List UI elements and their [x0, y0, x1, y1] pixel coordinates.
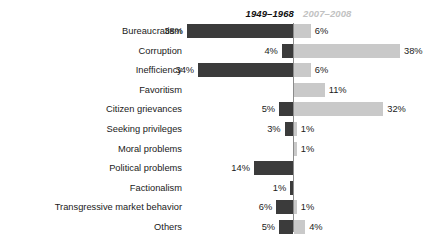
- chart-row: Corruption4%38%: [0, 43, 436, 63]
- value-label-right: 32%: [387, 104, 406, 115]
- bar-right: [294, 142, 297, 156]
- legend-label-period-2007-2008: 2007–2008: [303, 8, 351, 19]
- chart-row: Others5%4%: [0, 219, 436, 239]
- plot-area: Bureaucratism38%6%Corruption4%38%Ineffic…: [0, 23, 436, 239]
- value-label-left: 5%: [262, 222, 275, 233]
- bar-left: [254, 161, 293, 175]
- bar-right: [294, 200, 297, 214]
- value-label-right: 6%: [315, 26, 328, 37]
- chart-row: Political problems14%: [0, 160, 436, 180]
- chart-row: Inefficiency34%6%: [0, 62, 436, 82]
- category-label: Seeking privileges: [107, 124, 182, 135]
- chart-row: Factionalism1%: [0, 180, 436, 200]
- bar-right: [294, 24, 311, 38]
- category-label: Factionalism: [130, 183, 182, 194]
- value-label-right: 38%: [404, 46, 423, 57]
- value-label-left: 34%: [176, 65, 195, 76]
- legend-label-period-1949-1968: 1949–1968: [246, 8, 294, 19]
- value-label-right: 11%: [329, 85, 347, 96]
- bar-left: [282, 44, 293, 58]
- chart-row: Seeking privileges3%1%: [0, 121, 436, 141]
- value-label-right: 4%: [309, 222, 322, 233]
- bar-left: [198, 63, 293, 77]
- category-label: Favoritism: [139, 85, 182, 96]
- bar-right: [294, 83, 325, 97]
- bar-left: [279, 220, 293, 234]
- chart-row: Citizen grievances5%32%: [0, 101, 436, 121]
- value-label-right: 6%: [315, 65, 328, 76]
- bar-left: [276, 200, 293, 214]
- chart-row: Transgressive market behavior6%1%: [0, 199, 436, 219]
- value-label-left: 4%: [264, 46, 277, 57]
- value-label-left: 14%: [231, 163, 250, 174]
- value-label-left: 6%: [259, 202, 272, 213]
- chart-row: Moral problems1%: [0, 141, 436, 161]
- chart-legend: 1949–1968 2007–2008: [0, 8, 436, 22]
- bar-left: [187, 24, 293, 38]
- bar-right: [294, 102, 383, 116]
- diverging-bar-chart: 1949–1968 2007–2008 Bureaucratism38%6%Co…: [0, 0, 436, 243]
- bar-left: [279, 102, 293, 116]
- category-label: Moral problems: [118, 144, 182, 155]
- bar-right: [294, 44, 400, 58]
- bar-right: [294, 220, 305, 234]
- value-label-right: 1%: [301, 202, 314, 213]
- category-label: Citizen grievances: [106, 104, 182, 115]
- chart-row: Favoritism11%: [0, 82, 436, 102]
- value-label-left: 3%: [267, 124, 280, 135]
- value-label-left: 5%: [262, 104, 275, 115]
- value-label-right: 1%: [301, 144, 314, 155]
- bar-right: [294, 63, 311, 77]
- value-label-right: 1%: [301, 124, 314, 135]
- category-label: Corruption: [139, 46, 182, 57]
- bar-left: [290, 181, 293, 195]
- category-label: Political problems: [109, 163, 182, 174]
- value-label-left: 1%: [273, 183, 286, 194]
- bar-left: [285, 122, 293, 136]
- category-label: Others: [154, 222, 182, 233]
- value-label-left: 38%: [164, 26, 183, 37]
- bar-right: [294, 122, 297, 136]
- chart-row: Bureaucratism38%6%: [0, 23, 436, 43]
- category-label: Transgressive market behavior: [55, 202, 182, 213]
